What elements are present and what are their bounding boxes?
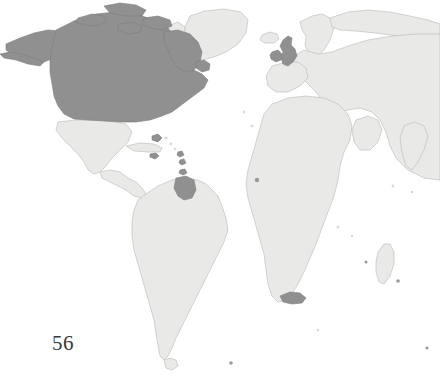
island-speck-comoros	[351, 235, 354, 238]
island-speck-atlantic-2	[243, 111, 246, 114]
region-southern-ocean-speck	[425, 346, 428, 349]
island-speck-caribbean-2	[170, 143, 173, 146]
world-map-svg	[0, 0, 440, 379]
region-indian-ocean-speck	[365, 261, 368, 264]
island-speck-caribbean-1	[164, 136, 167, 139]
region-mauritius-speck	[396, 279, 400, 283]
world-map-figure	[0, 0, 440, 379]
island-speck-caribbean-3	[174, 148, 177, 151]
page-number: 56	[52, 331, 74, 355]
island-speck-south-1	[317, 329, 319, 331]
region-west-africa-speck	[255, 178, 259, 182]
island-speck-africa-east	[337, 226, 340, 229]
book-page: 56	[0, 0, 440, 379]
region-falkland-islands	[229, 361, 233, 365]
island-speck-indian-2	[411, 191, 414, 194]
island-speck-atlantic-1	[251, 125, 254, 128]
island-speck-indian-1	[392, 185, 395, 188]
